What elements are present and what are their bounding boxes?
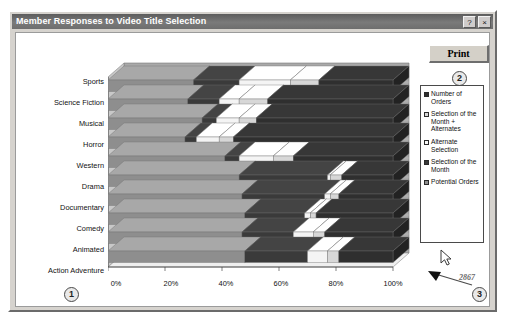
print-button[interactable]: Print (429, 45, 489, 63)
y-axis-category-labels: Sports Science Fiction Musical Horror We… (28, 61, 106, 266)
chart-window: Member Responses to Video Title Selectio… (8, 10, 497, 312)
legend-label: Potential Orders (431, 178, 479, 186)
legend-item-number-of-orders: Number of Orders (424, 90, 481, 105)
legend-item-alternate-selection: Alternate Selection (424, 138, 481, 153)
legend-label: Alternate Selection (431, 138, 481, 153)
y-axis-label-action-adventure: Action Adventure (48, 267, 104, 275)
help-button[interactable]: ? (463, 16, 476, 28)
y-axis-label-musical: Musical (79, 120, 104, 128)
x-tick-0: 0% (111, 279, 122, 288)
legend-swatch-icon (424, 112, 429, 117)
legend-swatch-icon (424, 140, 429, 145)
legend-label: Number of Orders (431, 90, 481, 105)
titlebar-buttons: ? × (463, 16, 491, 28)
plot-svg (108, 61, 413, 279)
plot-area (108, 61, 413, 276)
x-tick-60: 60% (274, 279, 289, 288)
y-axis-label-horror: Horror (83, 141, 104, 149)
window-client-area: Print 1 2 3 Sports Science Fiction Music… (15, 32, 490, 307)
x-axis-tick-labels: 0% 20% 40% 60% 80% 100% (108, 279, 413, 293)
annotation-value: 2867 (459, 273, 475, 282)
legend-swatch-icon (424, 160, 429, 165)
mouse-pointer-icon (440, 249, 454, 267)
close-button[interactable]: × (478, 16, 491, 28)
x-tick-40: 40% (219, 279, 234, 288)
legend-swatch-icon (424, 180, 429, 185)
legend-item-selection-of-the-month: Selection of the Month (424, 158, 481, 173)
legend-item-potential-orders: Potential Orders (424, 178, 481, 186)
stacked-bar-chart: Sports Science Fiction Musical Horror We… (28, 61, 418, 301)
legend-label: Selection of the Month + Alternates (431, 110, 481, 133)
y-axis-label-science-fiction: Science Fiction (54, 99, 104, 107)
screenshot-root: Member Responses to Video Title Selectio… (0, 0, 507, 327)
x-tick-80: 80% (329, 279, 344, 288)
callout-marker-2: 2 (452, 71, 467, 86)
y-axis-label-western: Western (77, 162, 104, 170)
x-tick-100: 100% (384, 279, 403, 288)
x-tick-20: 20% (164, 279, 179, 288)
chart-legend: Number of Orders Selection of the Month … (420, 85, 484, 243)
window-titlebar[interactable]: Member Responses to Video Title Selectio… (12, 14, 493, 29)
y-axis-label-comedy: Comedy (76, 225, 104, 233)
y-axis-label-animated: Animated (73, 246, 104, 254)
y-axis-label-sports: Sports (83, 78, 104, 86)
legend-swatch-icon (424, 92, 429, 97)
legend-item-selection-of-the-month-plus-alternates: Selection of the Month + Alternates (424, 110, 481, 133)
window-title: Member Responses to Video Title Selectio… (16, 14, 463, 29)
y-axis-label-drama: Drama (82, 183, 104, 191)
legend-label: Selection of the Month (431, 158, 481, 173)
y-axis-label-documentary: Documentary (60, 204, 104, 212)
